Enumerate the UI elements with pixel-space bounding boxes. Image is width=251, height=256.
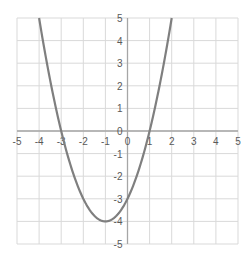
axes — [17, 18, 238, 244]
parabola-chart: -5-4-3-2-1012345 543210-1-2-3-4-5 — [0, 0, 251, 256]
y-tick-label: -1 — [114, 149, 123, 160]
x-tick-label: 5 — [235, 136, 241, 147]
y-tick-label: -3 — [114, 194, 123, 205]
x-tick-label: -4 — [35, 136, 44, 147]
x-tick-label: 2 — [169, 136, 175, 147]
y-tick-label: 1 — [117, 103, 123, 114]
x-tick-label: 4 — [213, 136, 219, 147]
y-tick-label: 4 — [117, 36, 123, 47]
x-tick-label: 0 — [125, 136, 131, 147]
y-tick-label: 3 — [117, 58, 123, 69]
x-tick-label: -2 — [79, 136, 88, 147]
x-tick-label: -5 — [13, 136, 22, 147]
x-axis-tick-labels: -5-4-3-2-1012345 — [13, 136, 242, 147]
x-tick-label: 3 — [191, 136, 197, 147]
y-tick-label: -5 — [114, 239, 123, 250]
y-tick-label: 2 — [117, 81, 123, 92]
y-tick-label: -2 — [114, 171, 123, 182]
x-tick-label: -1 — [101, 136, 110, 147]
y-tick-label: 5 — [117, 13, 123, 24]
y-tick-label: 0 — [117, 126, 123, 137]
